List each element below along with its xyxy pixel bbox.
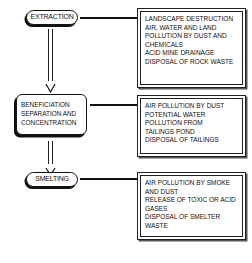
impact-item: RELEASE OF TOXIC OR ACID [145, 196, 238, 205]
stage-extraction-label: EXTRACTION [30, 13, 73, 20]
connector-beneficiation-impacts [90, 104, 137, 106]
stage-smelting: SMELTING [26, 172, 78, 187]
stage-smelting-label: SMELTING [35, 175, 69, 182]
impact-item: ACID MINE DRAINAGE [145, 49, 238, 58]
impact-item: AIR, WATER AND LAND [145, 24, 238, 33]
impacts-beneficiation-list: AIR POLLUTION BY DUST POTENTIAL WATER PO… [140, 98, 243, 154]
impacts-smelting-list: AIR POLLUTION BY SMOKE AND DUST RELEASE … [140, 175, 243, 237]
impact-item: WASTE [145, 222, 238, 231]
impact-item: CHEMICALS [145, 41, 238, 50]
stage-beneficiation: BENEFICIATION SEPARATION AND CONCENTRATI… [16, 94, 87, 135]
impacts-extraction-list: LANDSCAPE DESTRUCTION AIR, WATER AND LAN… [140, 11, 243, 85]
impacts-extraction-box: LANDSCAPE DESTRUCTION AIR, WATER AND LAN… [137, 8, 246, 88]
impact-item: POTENTIAL WATER [145, 111, 238, 120]
impacts-beneficiation-box: AIR POLLUTION BY DUST POTENTIAL WATER PO… [137, 95, 246, 157]
connector-extraction-impacts [80, 17, 137, 19]
impact-item: DISPOSAL OF SMELTER [145, 213, 238, 222]
stage-extraction: EXTRACTION [26, 10, 78, 25]
impact-item: AIR POLLUTION BY DUST [145, 102, 238, 111]
stage-beneficiation-label-line: BENEFICIATION [21, 100, 82, 109]
impact-item: LANDSCAPE DESTRUCTION [145, 15, 238, 24]
stage-beneficiation-label-line: SEPARATION AND [21, 109, 82, 118]
impact-item: DISPOSAL OF TAILINGS [145, 136, 238, 145]
impact-item: POLLUTION FROM [145, 119, 238, 128]
impacts-smelting-box: AIR POLLUTION BY SMOKE AND DUST RELEASE … [137, 172, 246, 240]
stage-beneficiation-label-line: CONCENTRATION [21, 118, 82, 127]
impact-item: DISPOSAL OF ROCK WASTE [145, 58, 238, 67]
impact-item: GASES [145, 205, 238, 214]
impact-item: AND DUST [145, 188, 238, 197]
impact-item: AIR POLLUTION BY SMOKE [145, 179, 238, 188]
impact-item: POLLUTION BY DUST AND [145, 32, 238, 41]
impact-item: TAILINGS POND [145, 128, 238, 137]
connector-smelting-impacts [80, 178, 137, 180]
flow-arrow-shaft-1 [48, 29, 53, 81]
flow-arrow-shaft-2 [48, 141, 53, 164]
